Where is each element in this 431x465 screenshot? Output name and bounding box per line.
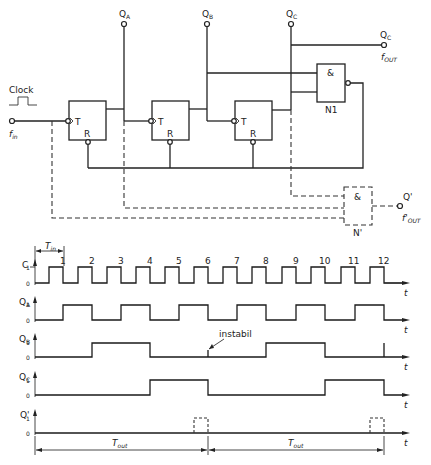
svg-text:11: 11 bbox=[348, 256, 359, 266]
svg-text:2: 2 bbox=[89, 256, 95, 266]
t-in-label: Tin bbox=[45, 241, 56, 252]
t-out-label-2: Tout bbox=[288, 438, 304, 449]
svg-text:1: 1 bbox=[26, 377, 30, 384]
svg-text:0: 0 bbox=[26, 317, 30, 324]
svg-text:t: t bbox=[404, 288, 408, 298]
input-terminal bbox=[10, 119, 15, 124]
svg-text:T: T bbox=[240, 117, 247, 127]
svg-text:1: 1 bbox=[26, 415, 30, 422]
qc-label: QC bbox=[286, 9, 297, 20]
signal-qc: QC 1 0 t bbox=[19, 371, 410, 410]
svg-text:0: 0 bbox=[26, 392, 30, 399]
qc-terminal bbox=[289, 22, 294, 27]
clock-pulse-icon bbox=[9, 97, 37, 105]
svg-text:9: 9 bbox=[293, 256, 299, 266]
clock-label: Clock bbox=[9, 85, 34, 95]
qprime-label: Q' bbox=[403, 192, 413, 202]
svg-text:t: t bbox=[404, 400, 408, 410]
qc-output-label: QC bbox=[380, 30, 391, 41]
svg-text:4: 4 bbox=[147, 256, 153, 266]
svg-text:t: t bbox=[404, 438, 408, 448]
qa-terminal bbox=[122, 22, 127, 27]
svg-text:&: & bbox=[354, 192, 361, 202]
t-out-label-1: Tout bbox=[112, 438, 128, 449]
svg-text:R: R bbox=[84, 129, 90, 139]
svg-text:3: 3 bbox=[118, 256, 124, 266]
svg-text:t: t bbox=[404, 325, 408, 335]
qprime-terminal bbox=[398, 204, 403, 209]
svg-text:7: 7 bbox=[234, 256, 240, 266]
svg-text:T: T bbox=[74, 117, 81, 127]
svg-text:0: 0 bbox=[26, 280, 30, 287]
svg-text:t: t bbox=[404, 362, 408, 372]
qb-terminal bbox=[205, 22, 210, 27]
circuit: Clock fin T R QA T R QB bbox=[9, 9, 422, 238]
svg-text:1: 1 bbox=[26, 339, 30, 346]
svg-text:1: 1 bbox=[26, 301, 30, 308]
fout-prime-label: f'OUT bbox=[402, 213, 422, 224]
svg-text:10: 10 bbox=[319, 256, 331, 266]
svg-text:8: 8 bbox=[263, 256, 269, 266]
signal-qb: QB 1 0 t instabil bbox=[19, 329, 410, 372]
nprime-label: N' bbox=[353, 228, 362, 238]
svg-text:1: 1 bbox=[26, 264, 30, 271]
svg-text:R: R bbox=[250, 129, 256, 139]
n1-label: N1 bbox=[325, 105, 337, 115]
signal-qa: QA 1 0 t bbox=[19, 296, 410, 335]
qa-label: QA bbox=[119, 9, 131, 20]
instabil-annotation: instabil bbox=[219, 329, 252, 339]
svg-text:&: & bbox=[327, 68, 334, 78]
svg-text:6: 6 bbox=[205, 256, 211, 266]
svg-text:1: 1 bbox=[60, 256, 66, 266]
svg-text:5: 5 bbox=[176, 256, 182, 266]
qc-output-terminal bbox=[382, 43, 387, 48]
svg-text:0: 0 bbox=[26, 430, 30, 437]
input-label: fin bbox=[9, 129, 18, 140]
signal-c: C 1 0 t 1 2 3 4 5 6 7 8 9 10 11 12 bbox=[22, 256, 410, 298]
svg-text:12: 12 bbox=[378, 256, 389, 266]
timing-diagram: Tin C 1 0 t 1 2 3 4 5 6 7 8 9 10 bbox=[19, 241, 410, 455]
signal-qprime: Q' 1 0 t bbox=[20, 409, 410, 448]
svg-text:T: T bbox=[157, 117, 164, 127]
counter-diagram: Clock fin T R QA T R QB bbox=[0, 0, 431, 465]
svg-text:R: R bbox=[167, 129, 173, 139]
qb-label: QB bbox=[202, 9, 213, 20]
svg-text:0: 0 bbox=[26, 354, 30, 361]
fout-label: fOUT bbox=[381, 52, 398, 63]
